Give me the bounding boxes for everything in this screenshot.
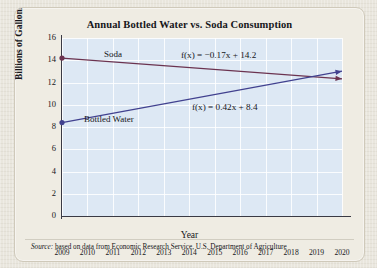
y-tick-label: 12 (38, 77, 56, 87)
y-tick-label: 2 (38, 188, 56, 198)
y-tick-label: 4 (38, 166, 56, 176)
figure-page: Annual Bottled Water vs. Soda Consumptio… (0, 0, 377, 268)
series-lines (62, 38, 352, 222)
series-label-soda: Soda (104, 49, 122, 59)
series-label-bottled-water: Bottled Water (84, 114, 134, 124)
data-point-marker-soda (59, 55, 64, 60)
y-tick-label: 0 (38, 210, 56, 220)
arrowhead-bottled-water (335, 70, 342, 75)
data-point-marker-bottled-water (59, 120, 64, 125)
arrowhead-soda (335, 76, 342, 81)
source-note: Source: based on data from Economic Rese… (31, 244, 356, 252)
source-text: based on data from Economic Research Ser… (53, 243, 287, 251)
y-axis-label: Billions of Gallons (14, 7, 24, 80)
equation-soda: f(x) = −0.17x + 14.2 (181, 50, 256, 60)
equation-bottled-water: f(x) = 0.42x + 8.4 (192, 102, 257, 112)
y-tick-label: 8 (38, 121, 56, 131)
source-divider (25, 239, 354, 240)
series-line-soda (62, 58, 342, 79)
plot-frame: 0246810121416 20092010201120122013201420… (62, 38, 342, 216)
y-tick-label: 6 (38, 143, 56, 153)
chart-card: Annual Bottled Water vs. Soda Consumptio… (14, 7, 365, 262)
chart-title: Annual Bottled Water vs. Soda Consumptio… (15, 19, 364, 30)
source-prefix: Source: (31, 243, 53, 251)
y-tick-label: 10 (38, 99, 56, 109)
y-tick-label: 14 (38, 54, 56, 64)
y-tick-label: 16 (38, 32, 56, 42)
